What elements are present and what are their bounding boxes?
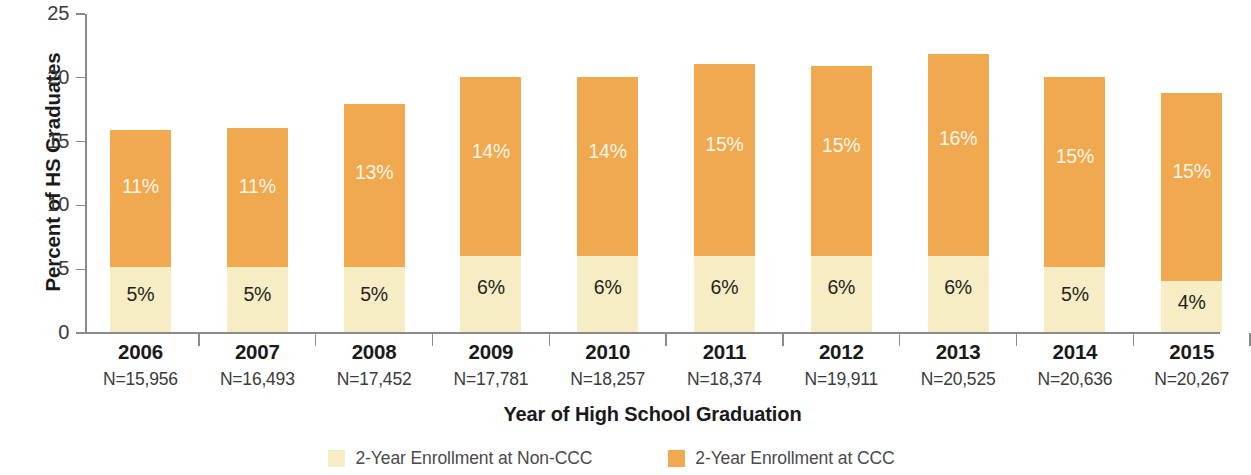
- bar-stack: 15%4%: [1161, 93, 1222, 333]
- bar-value-label-non-ccc: 6%: [577, 278, 638, 298]
- x-axis-year-label: 2015: [1133, 341, 1250, 364]
- bar-value-label-non-ccc: 4%: [1161, 293, 1222, 313]
- legend-label: 2-Year Enrollment at CCC: [695, 448, 894, 469]
- x-axis-year-label: 2009: [433, 341, 550, 364]
- x-axis-category-2010: 2010N=18,257: [549, 341, 666, 389]
- bar-segment-ccc: 15%: [811, 66, 872, 256]
- x-axis-year-label: 2012: [783, 341, 900, 364]
- y-axis-tick: [76, 13, 85, 14]
- y-axis-tick: [76, 269, 85, 270]
- x-axis-category-2006: 2006N=15,956: [82, 341, 199, 389]
- bar-value-label-ccc: 14%: [460, 142, 521, 162]
- x-axis-year-label: 2007: [199, 341, 316, 364]
- bar-stack: 15%5%: [1044, 77, 1105, 332]
- x-axis-n-label: N=16,493: [199, 370, 316, 389]
- plot-area: 0510152025 11%5%11%5%13%5%14%6%14%6%15%6…: [85, 14, 1220, 333]
- legend-item-non-ccc[interactable]: 2-Year Enrollment at Non-CCC: [328, 448, 592, 469]
- bar-segment-ccc: 11%: [227, 128, 288, 267]
- bar-value-label-non-ccc: 6%: [694, 278, 755, 298]
- bar-segment-non-ccc: 6%: [694, 256, 755, 333]
- bar-value-label-ccc: 15%: [811, 136, 872, 156]
- bar-value-label-ccc: 15%: [1161, 162, 1222, 182]
- bar-value-label-ccc: 13%: [344, 163, 405, 183]
- bar-segment-ccc: 16%: [928, 54, 989, 256]
- bar-segment-ccc: 15%: [694, 64, 755, 255]
- bar-value-label-non-ccc: 5%: [110, 285, 171, 305]
- y-axis-tick-label: 10: [25, 193, 69, 216]
- x-axis-n-label: N=20,636: [1017, 370, 1134, 389]
- x-axis-n-label: N=20,525: [900, 370, 1017, 389]
- bar-stack: 15%6%: [811, 66, 872, 333]
- bar-stack: 16%6%: [928, 54, 989, 332]
- x-axis-year-label: 2011: [666, 341, 783, 364]
- bar-segment-non-ccc: 5%: [1044, 267, 1105, 332]
- x-axis-category-2013: 2013N=20,525: [900, 341, 1017, 389]
- legend-swatch-icon: [668, 450, 685, 467]
- bar-value-label-ccc: 15%: [1044, 147, 1105, 167]
- bar-segment-ccc: 14%: [577, 77, 638, 256]
- bar-stack: 13%5%: [344, 104, 405, 332]
- bar-value-label-ccc: 11%: [227, 177, 288, 197]
- y-axis-tick: [76, 332, 85, 333]
- x-axis-year-label: 2006: [82, 341, 199, 364]
- x-axis-year-label: 2010: [549, 341, 666, 364]
- y-axis-tick: [76, 77, 85, 78]
- y-axis-tick-label: 5: [25, 257, 69, 280]
- x-axis-n-label: N=18,374: [666, 370, 783, 389]
- x-axis-n-label: N=15,956: [82, 370, 199, 389]
- bar-segment-non-ccc: 6%: [460, 256, 521, 333]
- bar-stack: 15%6%: [694, 64, 755, 332]
- x-axis-n-label: N=19,911: [783, 370, 900, 389]
- bar-segment-ccc: 13%: [344, 104, 405, 267]
- bar-stack: 11%5%: [227, 128, 288, 332]
- bar-segment-ccc: 15%: [1044, 77, 1105, 267]
- bar-stack: 14%6%: [460, 77, 521, 332]
- bar-value-label-non-ccc: 5%: [227, 285, 288, 305]
- y-axis-tick-label: 20: [25, 66, 69, 89]
- bar-value-label-ccc: 15%: [694, 135, 755, 155]
- x-axis-year-label: 2013: [900, 341, 1017, 364]
- bar-value-label-non-ccc: 6%: [928, 278, 989, 298]
- bar-value-label-non-ccc: 6%: [460, 278, 521, 298]
- bar-stack: 14%6%: [577, 77, 638, 332]
- x-axis-category-2008: 2008N=17,452: [316, 341, 433, 389]
- bar-value-label-ccc: 16%: [928, 129, 989, 149]
- bar-segment-non-ccc: 5%: [110, 267, 171, 332]
- x-axis-category-2007: 2007N=16,493: [199, 341, 316, 389]
- bar-segment-ccc: 14%: [460, 77, 521, 256]
- y-axis-line: [85, 14, 87, 333]
- x-axis-n-label: N=20,267: [1133, 370, 1250, 389]
- bar-segment-non-ccc: 4%: [1161, 281, 1222, 332]
- y-axis-tick-label: 25: [25, 2, 69, 25]
- bar-segment-non-ccc: 6%: [928, 256, 989, 333]
- x-axis-category-2012: 2012N=19,911: [783, 341, 900, 389]
- bar-segment-non-ccc: 6%: [577, 256, 638, 333]
- bar-segment-ccc: 15%: [1161, 93, 1222, 282]
- x-axis-category-2011: 2011N=18,374: [666, 341, 783, 389]
- legend-item-ccc[interactable]: 2-Year Enrollment at CCC: [668, 448, 894, 469]
- bar-value-label-ccc: 11%: [110, 177, 171, 197]
- bar-value-label-ccc: 14%: [577, 142, 638, 162]
- x-axis-title: Year of High School Graduation: [85, 403, 1220, 426]
- y-axis-tick-label: 15: [25, 130, 69, 153]
- bar-segment-non-ccc: 5%: [227, 267, 288, 332]
- x-axis-n-label: N=17,452: [316, 370, 433, 389]
- x-axis-category-2009: 2009N=17,781: [433, 341, 550, 389]
- bar-segment-ccc: 11%: [110, 130, 171, 268]
- y-axis-tick: [76, 205, 85, 206]
- y-axis-tick: [76, 141, 85, 142]
- bar-value-label-non-ccc: 6%: [811, 278, 872, 298]
- x-axis-category-2015: 2015N=20,267: [1133, 341, 1250, 389]
- y-axis-title: Percent of HS Graduates: [41, 2, 65, 342]
- x-axis-year-label: 2014: [1017, 341, 1134, 364]
- bar-segment-non-ccc: 5%: [344, 267, 405, 332]
- legend-swatch-icon: [328, 450, 345, 467]
- x-axis-category-2014: 2014N=20,636: [1017, 341, 1134, 389]
- y-axis-tick-label: 0: [25, 321, 69, 344]
- x-axis-n-label: N=18,257: [549, 370, 666, 389]
- x-axis-year-label: 2008: [316, 341, 433, 364]
- bar-stack: 11%5%: [110, 130, 171, 333]
- chart-legend: 2-Year Enrollment at Non-CCC2-Year Enrol…: [0, 448, 1223, 469]
- bar-value-label-non-ccc: 5%: [344, 285, 405, 305]
